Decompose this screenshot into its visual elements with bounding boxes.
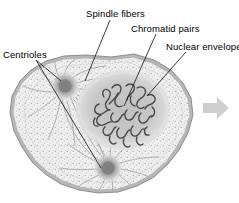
- label-spindle-fibers: Spindle fibers: [86, 8, 145, 19]
- mitosis-prophase-diagram: [0, 0, 239, 203]
- centriole-lower: [93, 153, 123, 183]
- next-stage-arrow: [203, 97, 229, 119]
- label-nuclear-envelope: Nuclear envelope: [166, 41, 239, 52]
- nuclear-envelope: [80, 74, 166, 146]
- label-centrioles: Centrioles: [3, 49, 47, 60]
- figure-page: Spindle fibers Chromatid pairs Nuclear e…: [0, 0, 239, 203]
- label-chromatid-pairs: Chromatid pairs: [131, 23, 200, 34]
